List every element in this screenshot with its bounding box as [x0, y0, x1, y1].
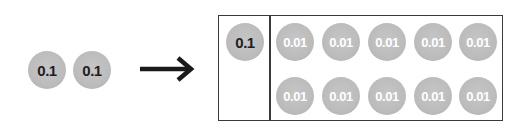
disk-tenth-1: 0.1: [28, 51, 66, 89]
disk-tenth-2: 0.1: [73, 51, 111, 89]
disk-hundredth: 0.01: [276, 23, 314, 61]
right-arrow-icon: [138, 56, 196, 82]
disk-hundredth: 0.01: [459, 23, 497, 61]
column-divider: [269, 15, 271, 121]
disk-hundredth: 0.01: [368, 23, 406, 61]
disk-hundredth: 0.01: [322, 23, 360, 61]
disk-hundredth: 0.01: [414, 23, 452, 61]
disk-hundredth: 0.01: [322, 77, 360, 115]
disk-tenth-remaining: 0.1: [226, 23, 264, 61]
disk-hundredth: 0.01: [368, 77, 406, 115]
disk-hundredth: 0.01: [276, 77, 314, 115]
disk-hundredth: 0.01: [414, 77, 452, 115]
disk-hundredth: 0.01: [459, 77, 497, 115]
